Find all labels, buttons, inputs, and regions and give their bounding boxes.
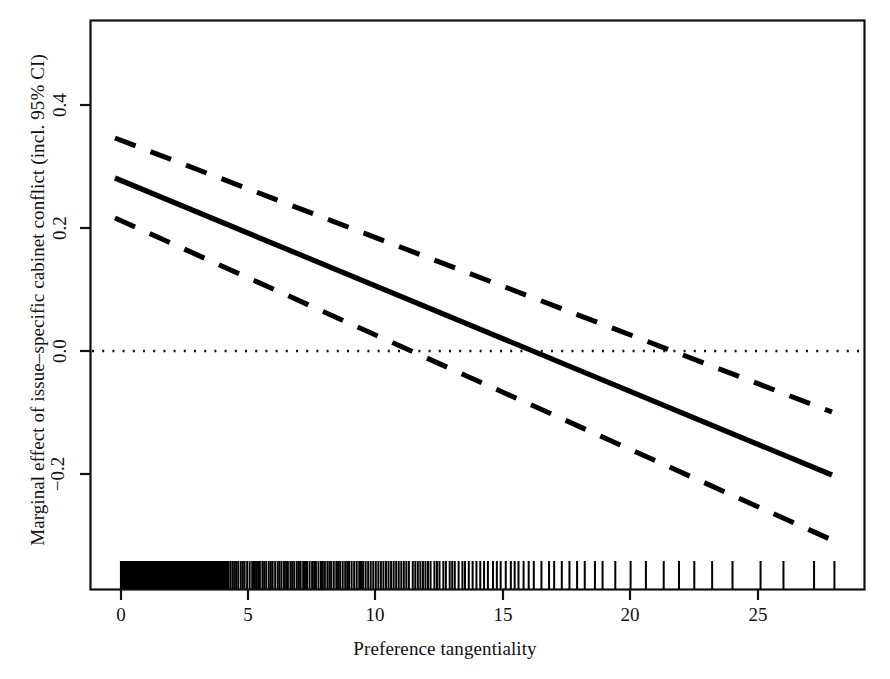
plot-canvas xyxy=(0,0,890,679)
x-tick-label-20: 20 xyxy=(608,604,652,626)
y-axis-ticks xyxy=(80,105,90,474)
marginal-effect-plot: 0.4 0.2 0.0 −0.2 0 5 10 15 20 25 Prefere… xyxy=(0,0,890,679)
x-tick-label-25: 25 xyxy=(736,604,780,626)
x-tick-label-10: 10 xyxy=(353,604,397,626)
x-axis-ticks xyxy=(121,589,758,600)
y-axis-label: Marginal effect of issue–specific cabine… xyxy=(27,54,49,546)
x-tick-label-15: 15 xyxy=(481,604,525,626)
x-tick-label-5: 5 xyxy=(226,604,270,626)
y-axis-label-wrapper: Marginal effect of issue–specific cabine… xyxy=(27,20,57,580)
x-tick-label-0: 0 xyxy=(99,604,143,626)
x-axis-label: Preference tangentiality xyxy=(0,638,890,660)
